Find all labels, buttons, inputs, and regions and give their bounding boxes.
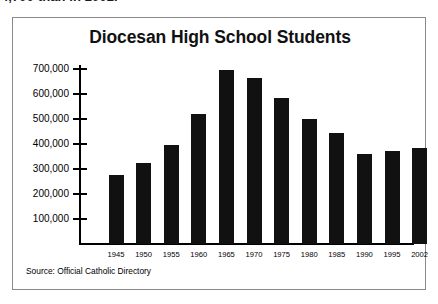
chart-figure-frame: Diocesan High School Students 100,000200…: [12, 17, 426, 290]
bar: [329, 133, 344, 244]
bar: [164, 145, 179, 244]
y-axis-tick-label: 500,000: [7, 114, 69, 124]
y-axis-tick-label: 200,000: [7, 189, 69, 199]
bar: [274, 98, 289, 245]
bar: [247, 78, 262, 244]
bar: [302, 119, 317, 245]
bar: [191, 114, 206, 244]
y-axis-tick: [73, 68, 87, 70]
truncated-body-text-label: 4,700 than in 2002.: [1, 0, 118, 4]
bar: [412, 148, 427, 244]
bar-chart-plot: 100,000200,000300,000400,000500,000600,0…: [13, 18, 427, 291]
bar: [385, 151, 400, 245]
x-axis-tick-label: 2002: [403, 250, 437, 259]
truncated-body-text: 4,700 than in 2002.: [0, 0, 438, 9]
bar: [136, 163, 151, 244]
y-axis-tick: [73, 93, 87, 95]
y-axis-tick: [73, 118, 87, 120]
y-axis-tick: [73, 143, 87, 145]
y-axis-tick-label: 700,000: [7, 64, 69, 74]
bar: [357, 154, 372, 244]
y-axis-tick: [73, 168, 87, 170]
y-axis-tick-label: 300,000: [7, 164, 69, 174]
y-axis-tick-label: 100,000: [7, 214, 69, 224]
source-note: Source: Official Catholic Directory: [26, 266, 151, 276]
bar: [219, 70, 234, 244]
y-axis-tick-label: 400,000: [7, 139, 69, 149]
y-axis-tick: [73, 193, 87, 195]
y-axis-tick: [73, 218, 87, 220]
y-axis-tick-label: 600,000: [7, 89, 69, 99]
bar: [109, 175, 124, 244]
